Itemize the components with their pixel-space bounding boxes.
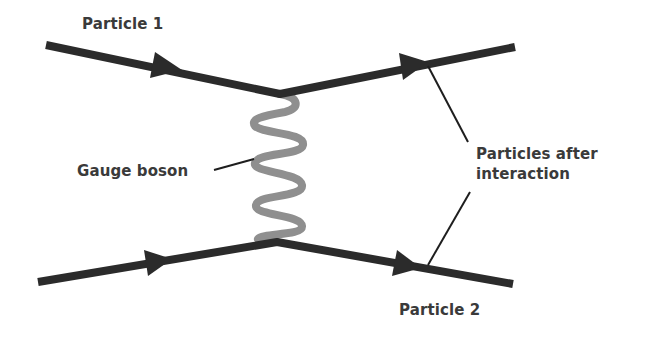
particle-2-line xyxy=(38,242,513,284)
gauge-boson-wavy-line xyxy=(254,94,303,242)
gauge-boson-leader-line xyxy=(214,159,254,170)
particles-after-label-line-1: Particles after xyxy=(476,144,598,164)
particle-1-line xyxy=(46,45,515,94)
particle-2-label: Particle 2 xyxy=(399,300,480,320)
gauge-boson-label: Gauge boson xyxy=(77,161,188,181)
particle-1-path xyxy=(46,45,515,94)
particles-after-label-line-2: interaction xyxy=(476,164,598,184)
particles-after-interaction-label: Particles after interaction xyxy=(476,144,598,184)
particles-after-leader-top xyxy=(428,66,468,142)
particles-after-leader-bottom xyxy=(428,192,470,265)
particle-1-label: Particle 1 xyxy=(82,14,163,34)
particle-2-path xyxy=(38,242,513,284)
